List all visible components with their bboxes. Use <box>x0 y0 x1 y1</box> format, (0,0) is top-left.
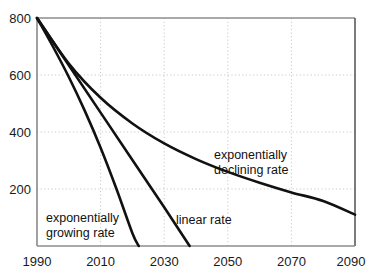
annotation-growing: exponentially growing rate <box>46 211 120 240</box>
annotation-growing-line-2: growing rate <box>46 226 115 240</box>
chart-figure: 800 600 400 200 1990 2010 2030 2050 2070… <box>0 0 370 279</box>
xtick-label-2090: 2090 <box>337 254 366 269</box>
ytick-label-200: 200 <box>9 182 31 197</box>
annotation-declining-line-2: declining rate <box>214 163 288 177</box>
xtick-label-2030: 2030 <box>150 254 179 269</box>
xtick-label-1990: 1990 <box>23 254 52 269</box>
annotation-declining: exponentially declining rate <box>214 148 288 177</box>
ytick-label-800: 800 <box>9 11 31 26</box>
annotation-declining-line-1: exponentially <box>214 148 288 162</box>
xtick-label-2010: 2010 <box>86 254 115 269</box>
annotation-linear-line-1: linear rate <box>176 213 232 227</box>
chart-svg: 800 600 400 200 1990 2010 2030 2050 2070… <box>0 0 370 279</box>
xtick-label-2050: 2050 <box>213 254 242 269</box>
ytick-label-600: 600 <box>9 68 31 83</box>
annotation-linear: linear rate <box>176 213 232 227</box>
annotation-growing-line-1: exponentially <box>46 211 120 225</box>
ytick-label-400: 400 <box>9 125 31 140</box>
xtick-label-2070: 2070 <box>277 254 306 269</box>
